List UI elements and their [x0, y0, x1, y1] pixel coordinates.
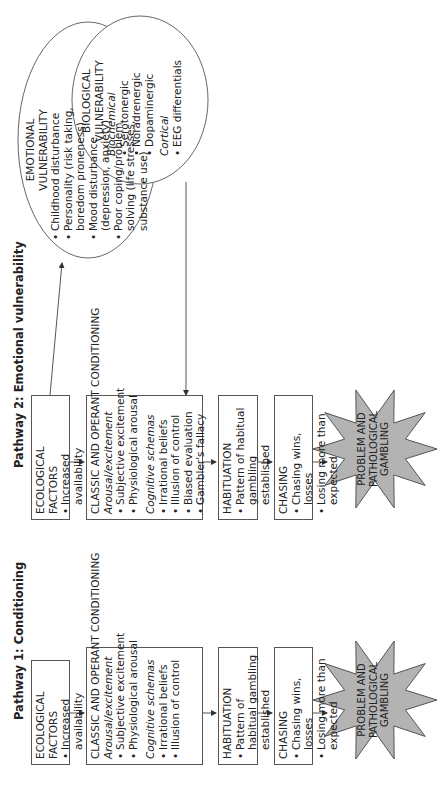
- biological-heading-1: BIOLOGICAL: [80, 46, 93, 156]
- list-item: Irrational beliefs: [157, 401, 170, 514]
- list-item: Chasing wins, losses: [290, 653, 315, 759]
- p1-outcome-label: PROBLEM AND PATHOLOGICAL GAMBLING: [356, 655, 391, 745]
- p1-cognitive-subheading: Cognitive schemas: [144, 653, 157, 759]
- list-item: Illusion of control: [169, 401, 182, 514]
- arrow-eco-to-emotional: [50, 263, 62, 395]
- outcome-line: PROBLEM AND: [356, 404, 368, 494]
- list-item: Noradrenergic: [130, 46, 143, 156]
- p2-conditioning-box: CLASSIC AND OPERANT CONDITIONING Arousal…: [86, 395, 203, 520]
- biological-heading-2: VULNERABILITY: [93, 46, 106, 156]
- p1-ecological-box: ECOLOGICAL FACTORS Increased availabilit…: [31, 660, 70, 765]
- p2-habituation-box: HABITUATION Pattern of habitual gambling…: [218, 395, 258, 520]
- outcome-line: PATHOLOGICAL: [368, 655, 380, 745]
- list-item: Irrational beliefs: [157, 653, 170, 759]
- list-item: Physiological arousal: [127, 401, 140, 514]
- list-item: Serotonergic: [118, 46, 131, 156]
- list-item: Dopaminergic: [143, 46, 156, 156]
- list-item: Biased evaluation: [182, 401, 195, 514]
- outcome-line: PROBLEM AND: [356, 655, 368, 745]
- emotional-heading-1: EMOTIONAL: [24, 60, 37, 240]
- p2-chasing-box: CHASING Chasing wins, losses Losing more…: [274, 395, 313, 520]
- p2-ecological-box: ECOLOGICAL FACTORS Increased availabilit…: [31, 395, 70, 520]
- list-item: Illusion of control: [169, 653, 182, 759]
- p1-conditioning-box: CLASSIC AND OPERANT CONDITIONING Arousal…: [86, 647, 203, 765]
- biological-vulnerability-text: BIOLOGICAL VULNERABILITY Biochemical Ser…: [80, 46, 183, 156]
- list-item: Subjective excitement: [114, 401, 127, 514]
- p1-chasing-box: CHASING Chasing wins, losses Losing more…: [274, 647, 313, 765]
- outcome-line: PATHOLOGICAL: [368, 404, 380, 494]
- p2-arousal-subheading: Arousal/excitement: [102, 401, 115, 514]
- cortical-subheading: Cortical: [158, 46, 171, 156]
- p2-cognitive-subheading: Cognitive schemas: [144, 401, 157, 514]
- pathway2-title: Pathway 2: Emotional vulnerability: [12, 241, 26, 468]
- list-item: Losing more than expected: [315, 653, 340, 759]
- p2-ecological-heading: ECOLOGICAL FACTORS: [34, 401, 59, 514]
- emotional-heading-2: VULNERABILITY: [37, 60, 50, 240]
- list-item: Increased availability: [59, 401, 84, 514]
- outcome-line: GAMBLING: [379, 655, 391, 745]
- p2-chasing-heading: CHASING: [277, 401, 290, 514]
- p2-habituation-heading: HABITUATION: [221, 401, 234, 514]
- p1-conditioning-heading: CLASSIC AND OPERANT CONDITIONING: [89, 653, 102, 759]
- list-item: Losing more than expected: [315, 401, 340, 514]
- p1-arousal-subheading: Arousal/excitement: [102, 653, 115, 759]
- p1-chasing-heading: CHASING: [277, 653, 290, 759]
- p2-outcome-label: PROBLEM AND PATHOLOGICAL GAMBLING: [356, 404, 391, 494]
- biochemical-subheading: Biochemical: [105, 46, 118, 156]
- p1-ecological-heading: ECOLOGICAL FACTORS: [34, 666, 59, 759]
- p1-habituation-box: HABITUATION Pattern of habitual gambling…: [218, 647, 258, 765]
- list-item: Increased availability: [59, 666, 84, 759]
- list-item: Pattern of habitual gambling established: [234, 401, 272, 514]
- diagram-canvas: Pathway 1: Conditioning ECOLOGICAL FACTO…: [0, 0, 445, 788]
- list-item: EEG differentials: [171, 46, 184, 156]
- list-item: Physiological arousal: [127, 653, 140, 759]
- p2-conditioning-heading: CLASSIC AND OPERANT CONDITIONING: [89, 401, 102, 514]
- list-item: Gambler's fallacy: [194, 401, 207, 514]
- list-item: Childhood disturbance: [49, 98, 62, 240]
- list-item: Pattern of habitual gambling established: [234, 653, 272, 759]
- list-item: Subjective excitement: [114, 653, 127, 759]
- pathway1-title: Pathway 1: Conditioning: [12, 562, 26, 720]
- p1-habituation-heading: HABITUATION: [221, 653, 234, 759]
- list-item: Chasing wins, losses: [290, 401, 315, 514]
- outcome-line: GAMBLING: [379, 404, 391, 494]
